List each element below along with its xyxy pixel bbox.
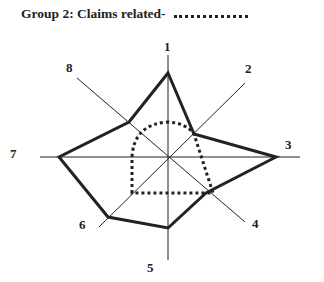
axis-label-4: 4	[252, 216, 259, 231]
axis-4-8	[77, 78, 245, 222]
axis-label-7: 7	[10, 146, 17, 161]
radar-chart: 1 2 3 4 5 6 7 8	[0, 0, 324, 282]
axis-label-1: 1	[164, 39, 171, 54]
axis-label-8: 8	[66, 60, 73, 75]
axis-label-6: 6	[79, 217, 86, 232]
axis-label-2: 2	[245, 61, 252, 76]
axis-label-5: 5	[147, 260, 154, 275]
axis-2-6	[99, 83, 245, 227]
axis-label-3: 3	[285, 137, 292, 152]
